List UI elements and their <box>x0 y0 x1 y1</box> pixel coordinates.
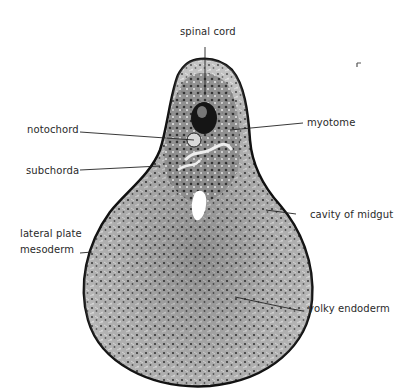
label-myotome: myotome <box>307 117 355 129</box>
label-notochord: notochord <box>27 124 79 136</box>
label-spinal-cord: spinal cord <box>180 26 236 38</box>
label-mesoderm: mesoderm <box>20 244 74 256</box>
label-yolky-endoderm: yolky endoderm <box>308 303 390 315</box>
label-subchorda: subchorda <box>26 165 79 177</box>
embryo-cross-section-figure: spinal cord myotome notochord subchorda … <box>0 0 404 391</box>
specimen-illustration <box>0 0 404 391</box>
label-lateral-plate: lateral plate <box>20 228 82 240</box>
label-cavity-of-midgut: cavity of midgut <box>310 209 393 221</box>
